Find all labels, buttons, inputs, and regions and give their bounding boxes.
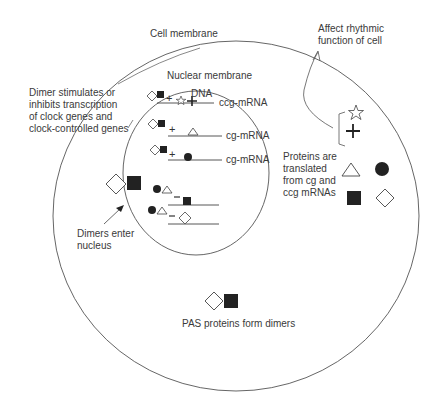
square-icon bbox=[158, 120, 165, 127]
square-icon bbox=[224, 294, 238, 308]
label-line: nucleus bbox=[77, 240, 111, 253]
triangle-icon bbox=[188, 128, 198, 135]
triangle-icon bbox=[157, 207, 167, 214]
mrna-label-cg-1: cg-mRNA bbox=[226, 130, 269, 141]
diamond-icon bbox=[147, 91, 157, 101]
circle-icon bbox=[148, 206, 156, 214]
square-icon bbox=[347, 191, 361, 205]
square-icon bbox=[183, 197, 191, 205]
diagram-canvas: + + + bbox=[0, 0, 443, 408]
diamond-icon bbox=[205, 292, 223, 310]
plus-sign: + bbox=[169, 123, 175, 135]
square-icon bbox=[127, 176, 141, 190]
diamond-icon bbox=[148, 119, 158, 129]
nuclear-membrane bbox=[123, 91, 269, 255]
label-line: clock-controlled genes bbox=[29, 123, 129, 136]
mrna-label-cg-2: cg-mRNA bbox=[226, 154, 269, 165]
label-line: function of cell bbox=[318, 35, 382, 48]
label-line: Dimer stimulates or bbox=[29, 87, 115, 100]
diamond-icon bbox=[376, 189, 394, 207]
dna-label: DNA bbox=[191, 88, 212, 101]
affect-arrow bbox=[304, 52, 333, 128]
dimer-stimulates-leader-2 bbox=[128, 120, 133, 128]
cross-icon bbox=[346, 124, 360, 138]
cell-membrane-label: Cell membrane bbox=[150, 28, 218, 41]
bracket bbox=[339, 112, 345, 146]
star-icon bbox=[349, 105, 364, 120]
diamond-icon bbox=[179, 212, 191, 224]
nuclear-membrane-label: Nuclear membrane bbox=[167, 70, 252, 83]
mrna-label-ccg: ccg-mRNA bbox=[219, 97, 267, 108]
gene-row-cg-circle: + bbox=[150, 145, 222, 161]
plus-sign: + bbox=[166, 92, 172, 104]
pas-dimers-label: PAS proteins form dimers bbox=[182, 318, 295, 331]
diamond-icon bbox=[150, 145, 160, 155]
gene-row-cg-triangle: + bbox=[148, 119, 222, 136]
label-line: translated bbox=[283, 163, 327, 176]
label-line: Dimers enter bbox=[77, 228, 134, 241]
triangle-icon bbox=[342, 163, 360, 176]
label-line: Affect rhythmic bbox=[318, 23, 384, 36]
label-line: inhibits transcription bbox=[29, 99, 117, 112]
circle-icon bbox=[375, 162, 389, 176]
label-line: ccg mRNAs bbox=[283, 187, 336, 200]
arrow-head-icon bbox=[116, 205, 124, 212]
circle-icon bbox=[153, 185, 161, 193]
triangle-icon bbox=[162, 186, 172, 193]
gene-row-repressed-square bbox=[153, 185, 219, 205]
label-line: Proteins are bbox=[283, 151, 337, 164]
pas-dimer bbox=[205, 292, 238, 310]
label-line: of clock genes and bbox=[29, 111, 112, 124]
label-line: from cg and bbox=[283, 175, 336, 188]
plus-sign: + bbox=[169, 148, 175, 160]
gene-row-repressed-diamond bbox=[148, 206, 219, 224]
square-icon bbox=[157, 91, 164, 98]
circle-icon bbox=[184, 153, 192, 161]
square-icon bbox=[160, 146, 167, 153]
